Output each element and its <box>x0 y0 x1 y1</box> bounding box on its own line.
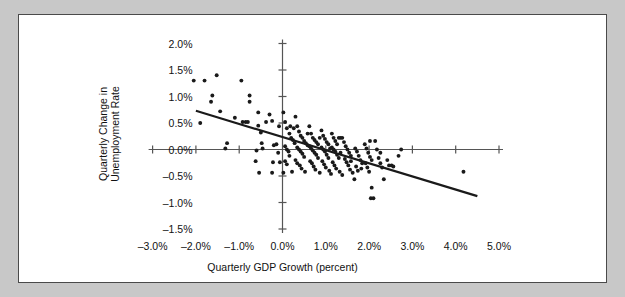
data-point <box>348 168 352 172</box>
x-tick-label: 4.0% <box>433 241 479 252</box>
data-point <box>366 151 370 155</box>
y-axis-title-line-1: Quarterly Change in <box>97 42 109 226</box>
data-point <box>324 166 328 170</box>
data-point <box>292 126 296 130</box>
data-point <box>377 156 381 160</box>
data-point <box>328 146 332 150</box>
data-point <box>309 132 313 136</box>
data-point <box>256 110 260 114</box>
data-point <box>300 167 304 171</box>
data-point <box>270 119 274 123</box>
x-tick-label: 2.0% <box>346 241 392 252</box>
y-tick-label: 1.5% <box>151 65 193 76</box>
data-point <box>276 151 280 155</box>
data-point <box>375 148 379 152</box>
data-point <box>360 161 364 165</box>
data-point <box>306 132 310 136</box>
data-point <box>318 171 322 175</box>
y-axis-title: Quarterly Change in Unemployment Rate <box>97 42 121 226</box>
data-point <box>380 166 384 170</box>
data-point <box>281 110 285 114</box>
data-point <box>365 146 369 150</box>
data-point <box>329 172 333 176</box>
data-point <box>294 115 298 119</box>
data-point <box>198 121 202 125</box>
data-point <box>287 154 291 158</box>
data-point <box>351 171 355 175</box>
data-point <box>218 109 222 113</box>
data-point <box>391 165 395 169</box>
figure-frame: Quarterly Change in Unemployment Rate Qu… <box>0 0 625 297</box>
data-point <box>346 163 350 167</box>
data-point <box>355 150 359 154</box>
y-tick-label: 0.5% <box>151 118 193 129</box>
y-tick-label: 1.0% <box>151 92 193 103</box>
data-point <box>330 132 334 136</box>
x-tick-label: –2.0% <box>173 241 219 252</box>
data-point <box>370 158 374 162</box>
x-axis-title: Quarterly GDP Growth (percent) <box>163 261 403 273</box>
data-point <box>260 141 264 145</box>
data-point <box>326 156 330 160</box>
data-point <box>271 160 275 164</box>
data-point <box>283 120 287 124</box>
data-point <box>210 93 214 97</box>
data-point <box>368 139 372 143</box>
data-point <box>349 154 353 158</box>
data-point <box>385 158 389 162</box>
data-point <box>259 131 263 135</box>
data-point <box>356 169 360 173</box>
data-point <box>248 100 252 104</box>
data-point <box>307 124 311 128</box>
data-point <box>334 167 338 171</box>
y-axis-title-line-2: Unemployment Rate <box>109 42 121 226</box>
x-tick-label: –3.0% <box>130 241 176 252</box>
x-tick-label: 1.0% <box>303 241 349 252</box>
data-point <box>239 79 243 83</box>
data-point <box>318 136 322 140</box>
data-point <box>287 132 291 136</box>
data-point <box>288 124 292 128</box>
data-point <box>338 170 342 174</box>
data-point <box>378 151 382 155</box>
data-point <box>225 141 229 145</box>
data-point <box>290 170 294 174</box>
data-point <box>192 79 196 83</box>
data-point <box>264 120 268 124</box>
data-point <box>349 159 353 163</box>
x-tick-label: 3.0% <box>389 241 435 252</box>
data-point <box>335 142 339 146</box>
data-point <box>337 156 341 160</box>
data-point <box>203 79 207 83</box>
data-point <box>274 142 278 146</box>
data-point <box>320 128 324 132</box>
data-point <box>246 120 250 124</box>
data-point <box>357 154 361 158</box>
data-point <box>285 162 289 166</box>
data-point <box>257 171 261 175</box>
data-point <box>223 146 227 150</box>
data-point <box>261 146 265 150</box>
data-point <box>363 142 367 146</box>
data-point <box>397 154 401 158</box>
data-point <box>254 159 258 163</box>
y-tick-label: 0.0% <box>151 145 193 156</box>
data-point <box>382 177 386 181</box>
data-point <box>256 124 260 128</box>
data-point <box>277 124 281 128</box>
data-point <box>270 171 274 175</box>
data-point <box>278 160 282 164</box>
data-point <box>287 150 291 154</box>
data-point <box>378 161 382 165</box>
data-point <box>293 141 297 145</box>
data-point <box>281 171 285 175</box>
data-point <box>462 170 466 174</box>
data-point <box>295 124 299 128</box>
data-point <box>215 73 219 77</box>
y-tick-label: –1.0% <box>151 198 193 209</box>
data-point <box>370 186 374 190</box>
data-point <box>365 166 369 170</box>
data-point <box>340 136 344 140</box>
data-point <box>326 142 330 146</box>
data-point <box>268 113 272 117</box>
